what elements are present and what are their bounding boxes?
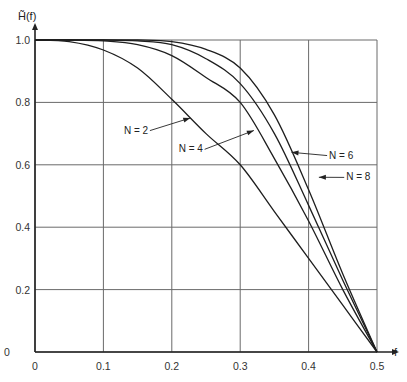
curve-n8 [35,40,377,352]
arrowhead-icon [246,130,253,135]
arrowhead-icon [183,118,190,123]
chart: 0.10.20.30.40.500.20.40.60.81.0 N = 2N =… [0,0,407,382]
curve-n6 [35,40,377,352]
curves [35,40,377,352]
x-tick-label: 0.4 [301,360,316,372]
y-axis-arrow-icon [32,23,38,30]
y-tick-label: 0.4 [15,221,30,233]
curve-label: N = 8 [346,171,371,182]
y-tick-label: 0.6 [15,159,30,171]
x-tick-label: 0.3 [233,360,248,372]
tick-labels: 0.10.20.30.40.500.20.40.60.81.0 [15,34,384,372]
y-tick-label: 1.0 [15,34,30,46]
origin-label: 0 [4,346,10,358]
curve-n2 [35,40,377,352]
curve-n4 [35,40,377,352]
curve-label: N = 4 [179,143,204,154]
y-tick-label: 0.8 [15,96,30,108]
curve-label: N = 2 [124,125,149,136]
x-tick-label: 0.5 [370,360,385,372]
x-tick-label: 0.2 [164,360,179,372]
arrowhead-icon [319,175,326,180]
y-tick-label: 0.2 [15,284,30,296]
grid [35,40,377,352]
x-tick-label: 0.1 [96,360,111,372]
curve-label: N = 6 [329,150,354,161]
axes [32,23,399,355]
x-tick-label: 0 [32,360,38,372]
y-axis-label: H̃(f) [18,10,36,22]
